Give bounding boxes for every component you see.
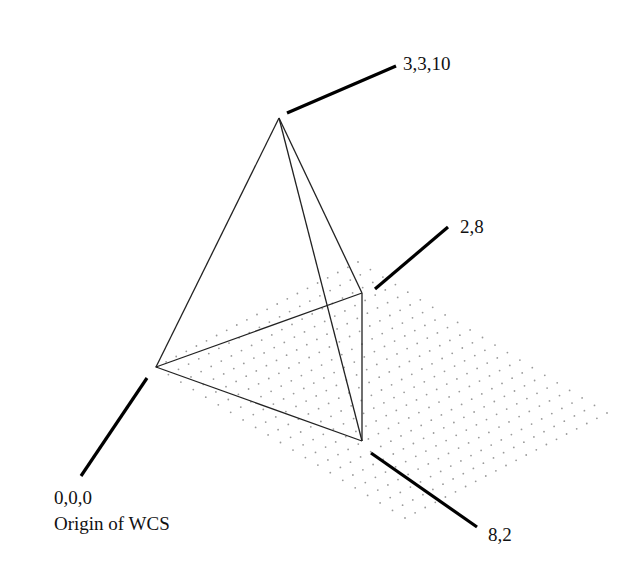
grid-dot (449, 340, 451, 342)
grid-dot (357, 443, 359, 445)
grid-dot (215, 391, 217, 393)
grid-dot (561, 408, 563, 410)
grid-dot (594, 405, 596, 407)
grid-dot (468, 442, 470, 444)
grid-dot (286, 354, 288, 356)
grid-dot (500, 439, 502, 441)
grid-dot (498, 426, 500, 428)
grid-dot (340, 467, 342, 469)
grid-dot (519, 359, 521, 361)
grid-dot (404, 335, 406, 337)
grid-dot (328, 403, 330, 405)
grid-dot (479, 380, 481, 382)
grid-dot (356, 318, 358, 320)
grid-dot (387, 484, 389, 486)
grid-dot (353, 361, 355, 363)
grid-dot (465, 486, 467, 488)
grid-dot (412, 499, 414, 501)
grid-dot (505, 465, 507, 467)
grid-dot (216, 335, 218, 337)
grid-dot (403, 448, 405, 450)
grid-dot (318, 408, 320, 410)
grid-dot (413, 443, 415, 445)
grid-dot (476, 424, 478, 426)
grid-dot (494, 344, 496, 346)
grid-dot (351, 348, 353, 350)
grid-dot (385, 471, 387, 473)
tetrahedron-edges (156, 118, 362, 441)
xy-grid-dots (155, 261, 608, 519)
grid-dot (434, 501, 436, 503)
grid-dot (421, 368, 423, 370)
grid-dot (571, 402, 573, 404)
grid-dot (566, 433, 568, 435)
grid-dot (339, 341, 341, 343)
grid-dot (329, 472, 331, 474)
grid-dot (496, 413, 498, 415)
grid-dot (475, 480, 477, 482)
grid-dot (471, 398, 473, 400)
grid-dot (559, 395, 561, 397)
grid-dot (381, 389, 383, 391)
grid-dot (316, 339, 318, 341)
grid-dot (433, 432, 435, 434)
grid-dot (469, 329, 471, 331)
grid-dot (525, 454, 527, 456)
grid-dot (261, 339, 263, 341)
grid-dot (293, 393, 295, 395)
grid-dot (344, 310, 346, 312)
grid-dot (336, 385, 338, 387)
grid-dot (584, 410, 586, 412)
grid-dot (349, 279, 351, 281)
grid-dot (185, 350, 187, 352)
grid-dot (407, 291, 409, 293)
grid-dot (319, 295, 321, 297)
grid-dot (368, 382, 370, 384)
grid-dot (354, 305, 356, 307)
grid-dot (303, 388, 305, 390)
grid-dot (276, 360, 278, 362)
grid-dot (321, 364, 323, 366)
grid-dot (483, 406, 485, 408)
grid-dot (397, 479, 399, 481)
grid-dot (362, 469, 364, 471)
grid-dot (414, 512, 416, 514)
grid-dot (422, 494, 424, 496)
grid-dot (456, 378, 458, 380)
grid-dot (377, 307, 379, 309)
grid-dot (218, 347, 220, 349)
grid-dot (405, 461, 407, 463)
grid-dot (539, 405, 541, 407)
grid-dot (360, 456, 362, 458)
grid-dot (491, 388, 493, 390)
grid-dot (507, 352, 509, 354)
grid-dot (290, 380, 292, 382)
grid-dot (488, 432, 490, 434)
grid-dot (301, 318, 303, 320)
grid-dot (506, 408, 508, 410)
grid-dot (458, 447, 460, 449)
grid-dot (391, 384, 393, 386)
grid-dot (546, 387, 548, 389)
grid-dot (292, 449, 294, 451)
grid-dot (418, 412, 420, 414)
grid-dot (266, 308, 268, 310)
grid-dot (410, 430, 412, 432)
grid-dot (192, 389, 194, 391)
grid-dot (366, 369, 368, 371)
grid-dot (425, 450, 427, 452)
grid-dot (251, 345, 253, 347)
grid-dot (473, 468, 475, 470)
grid-dot (481, 393, 483, 395)
grid-dot (443, 427, 445, 429)
grid-dot (380, 446, 382, 448)
grid-dot (326, 333, 328, 335)
grid-dot (372, 464, 374, 466)
grid-dot (409, 361, 411, 363)
grid-dot (288, 367, 290, 369)
grid-dot (350, 405, 352, 407)
grid-dot (404, 517, 406, 519)
grid-dot (236, 324, 238, 326)
grid-dot (390, 440, 392, 442)
grid-dot (476, 368, 478, 370)
